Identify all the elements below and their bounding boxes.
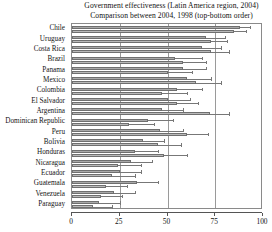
bar-2004 (72, 67, 183, 70)
error-bar (129, 124, 154, 125)
bar-1998 (72, 185, 106, 188)
error-bar-cap (154, 123, 155, 126)
y-axis-label: Uruguay (40, 35, 65, 43)
error-bar-cap (187, 154, 188, 157)
bar-group (72, 150, 263, 153)
error-bar (177, 103, 198, 104)
chart-subtitle: Comparison between 2004, 1998 (top-botto… (71, 11, 272, 21)
x-axis-tick-label: 75 (211, 217, 218, 226)
error-bar-cap (221, 46, 222, 49)
bar-2004 (72, 46, 202, 49)
bar-group (72, 112, 263, 115)
bar-1998 (72, 81, 196, 84)
x-axis-tick (167, 213, 168, 216)
error-bar-cap (227, 40, 228, 43)
bar-group (72, 81, 263, 84)
y-axis-label: Colombia (37, 86, 65, 94)
x-axis-tick (71, 213, 72, 216)
y-axis-label: Costa Rica (34, 45, 65, 53)
error-bar (120, 172, 141, 173)
error-bar-cap (202, 57, 203, 60)
bar-group (72, 185, 263, 188)
error-bar-cap (152, 160, 153, 163)
bar-group (72, 92, 263, 95)
error-bar (211, 41, 226, 42)
error-bar (240, 27, 250, 28)
error-bar (137, 182, 158, 183)
error-bar (148, 120, 173, 121)
chart-title-block: Government effectiveness (Latin America … (71, 1, 272, 20)
bar-group (72, 61, 263, 64)
error-bar (187, 134, 208, 135)
error-bar-cap (221, 81, 222, 84)
bar-1998 (72, 30, 234, 33)
bar-2004 (72, 88, 177, 91)
error-bar (202, 48, 221, 49)
error-bar-cap (208, 133, 209, 136)
bar-2004 (72, 150, 135, 153)
y-axis-label: Dominican Republic (5, 117, 65, 125)
error-bar (118, 165, 141, 166)
error-bar (101, 196, 122, 197)
bar-1998 (72, 40, 211, 43)
bar-group (72, 143, 263, 146)
y-axis-label: Guatemala (34, 179, 65, 187)
y-axis-label: Nicaragua (35, 159, 65, 167)
error-bar-cap (229, 50, 230, 53)
error-bar (93, 207, 112, 208)
bar-2004 (72, 119, 148, 122)
error-bar-cap (246, 30, 247, 33)
bar-1998 (72, 143, 158, 146)
y-axis-label: Bolivia (44, 138, 65, 146)
x-axis-tick (262, 213, 263, 216)
error-bar (131, 162, 152, 163)
error-bar-cap (225, 36, 226, 39)
error-bar (206, 38, 225, 39)
bar-group (72, 50, 263, 53)
bar-group (72, 46, 263, 49)
y-axis-label: Panama (42, 66, 65, 74)
error-bar (175, 58, 202, 59)
error-bar-cap (250, 26, 251, 29)
bar-group (72, 139, 263, 142)
y-axis-label: Brazil (47, 55, 65, 63)
error-bar-cap (206, 67, 207, 70)
error-bar-cap (164, 139, 165, 142)
error-bar (106, 186, 127, 187)
bar-2004 (72, 129, 160, 132)
x-axis: 0255075100 (71, 212, 262, 213)
bar-group (72, 123, 263, 126)
y-axis-category-labels: ChileUruguayCosta RicaBrazilPanamaMexico… (0, 23, 68, 209)
bar-2004 (72, 191, 114, 194)
bar-2004 (72, 77, 187, 80)
error-bar (112, 176, 135, 177)
error-bar (135, 151, 158, 152)
bar-group (72, 160, 263, 163)
y-axis-label: Ecuador (41, 169, 65, 177)
chart-title: Government effectiveness (Latin America … (71, 1, 272, 11)
bar-group (72, 36, 263, 39)
bar-group (72, 129, 263, 132)
error-bar-cap (158, 181, 159, 184)
x-axis-tick (214, 213, 215, 216)
bar-group (72, 67, 263, 70)
y-axis-label: Peru (52, 128, 65, 136)
bar-group (72, 174, 263, 177)
error-bar (234, 31, 245, 32)
bar-group (72, 30, 263, 33)
error-bar (168, 72, 193, 73)
x-axis-tick-label: 0 (69, 217, 73, 226)
error-bar-cap (181, 143, 182, 146)
bar-group (72, 77, 263, 80)
bar-1998 (72, 123, 129, 126)
y-axis-label: El Salvador (31, 97, 65, 105)
y-axis-label: Venezuela (35, 190, 65, 198)
y-axis-label: Argentina (36, 107, 65, 115)
x-axis-tick-label: 100 (256, 217, 267, 226)
bar-2004 (72, 139, 143, 142)
bar-1998 (72, 195, 101, 198)
x-axis-tick-label: 50 (163, 217, 170, 226)
error-bar-cap (190, 98, 191, 101)
bar-1998 (72, 50, 211, 53)
error-bar (143, 141, 164, 142)
